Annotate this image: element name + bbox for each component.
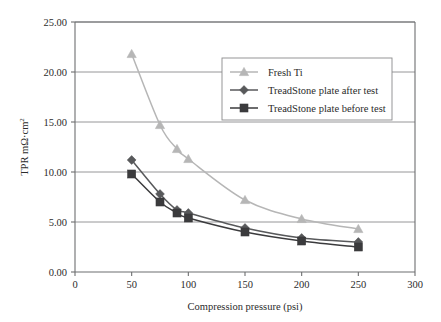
y-tick-label-10.00: 10.00 (43, 167, 67, 178)
x-tick-label-150: 150 (237, 279, 253, 290)
y-tick-label-25.00: 25.00 (43, 17, 67, 28)
x-axis-title: Compression pressure (psi) (188, 301, 303, 313)
data-point-50 (128, 170, 136, 178)
data-point-100 (184, 154, 193, 162)
y-tick-label-5.00: 5.00 (49, 217, 67, 228)
data-point-100 (184, 214, 192, 222)
data-point-90 (173, 209, 181, 217)
legend-label: TreadStone plate after test (268, 85, 378, 96)
chart-container: 050100150200250300 0.005.0010.0015.0020.… (0, 0, 441, 322)
x-tick-label-100: 100 (180, 279, 196, 290)
axis-titles: Compression pressure (psi)TPR mΩ·cm2 (18, 118, 303, 313)
y-tick-label-0.00: 0.00 (49, 267, 67, 278)
legend: Fresh TiTreadStone plate after testTread… (222, 58, 392, 120)
series-treadstone-plate-before-test (128, 170, 363, 251)
data-point-200 (298, 237, 306, 245)
data-point-150 (241, 228, 249, 236)
y-axis-title: TPR mΩ·cm2 (18, 118, 30, 176)
gridlines (75, 22, 415, 222)
x-axis-tick-labels: 050100150200250300 (72, 279, 423, 290)
x-tick-label-250: 250 (350, 279, 366, 290)
legend-marker (240, 104, 248, 112)
x-tick-label-200: 200 (294, 279, 310, 290)
y-tick-label-20.00: 20.00 (43, 67, 67, 78)
legend-label: TreadStone plate before test (268, 103, 386, 114)
data-point-150 (240, 195, 249, 203)
data-point-250 (354, 243, 362, 251)
y-tick-label-15.00: 15.00 (43, 117, 67, 128)
y-axis-tick-labels: 0.005.0010.0015.0020.0025.00 (43, 17, 67, 278)
x-tick-label-50: 50 (126, 279, 137, 290)
data-point-75 (156, 198, 164, 206)
legend-label: Fresh Ti (268, 67, 303, 78)
x-tick-label-0: 0 (72, 279, 77, 290)
data-point-50 (127, 49, 136, 57)
x-tick-label-300: 300 (407, 279, 423, 290)
tpr-vs-compression-pressure-chart: 050100150200250300 0.005.0010.0015.0020.… (0, 0, 441, 322)
